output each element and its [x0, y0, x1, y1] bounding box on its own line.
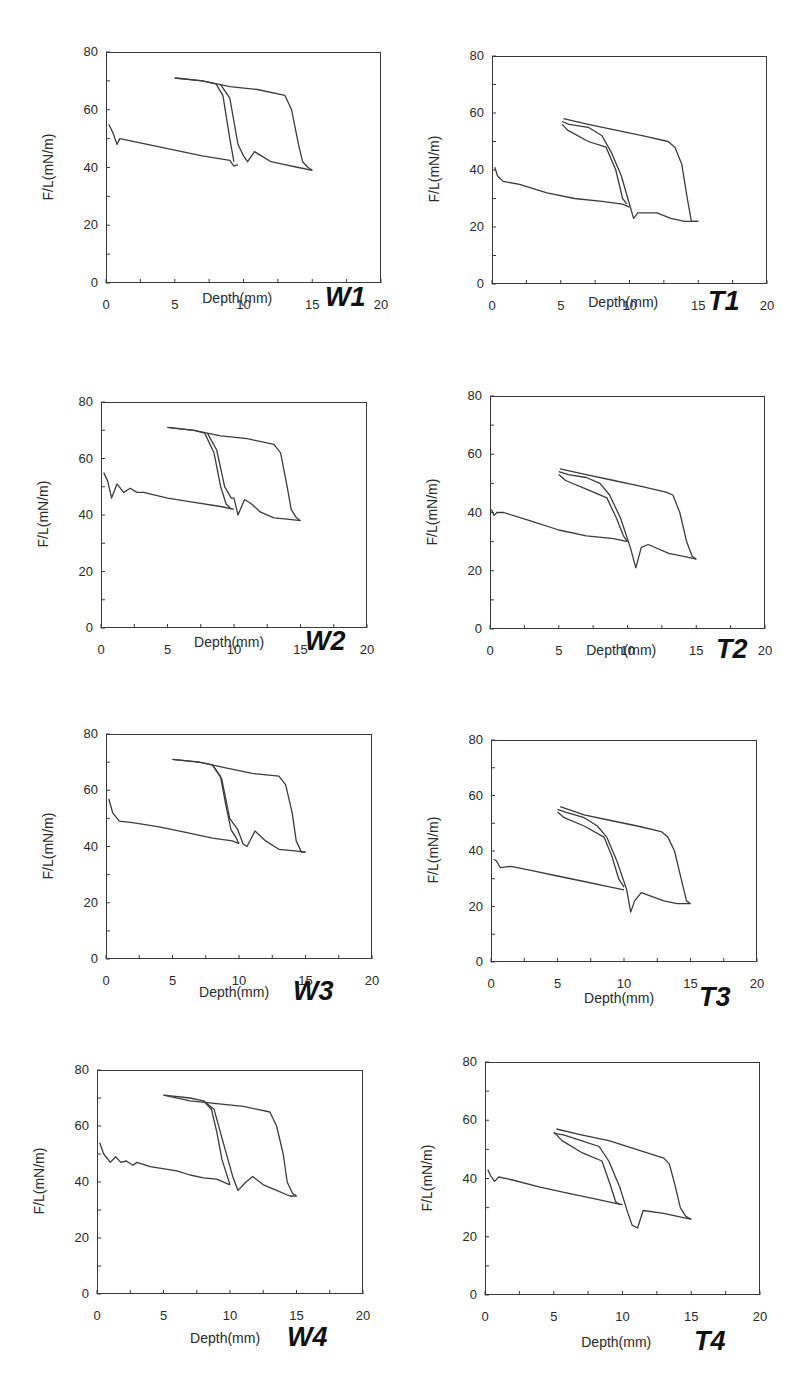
- series-line-return-from-15mm: [173, 759, 306, 852]
- y-tick-label: 20: [455, 899, 483, 914]
- y-tick-label: 20: [70, 895, 98, 910]
- y-tick-label: 60: [70, 782, 98, 797]
- x-tick-label: 5: [160, 297, 190, 312]
- series-line-return-from-15mm: [560, 807, 690, 904]
- series-line-curve-to-10mm: [100, 1143, 230, 1185]
- y-axis-label: F/L(mN/m): [426, 129, 442, 209]
- y-tick-label: 40: [65, 507, 93, 522]
- plot-area: [485, 1062, 760, 1295]
- x-tick-label: 20: [750, 643, 780, 658]
- y-tick-label: 80: [449, 1054, 477, 1069]
- x-axis-label: Depth(mm): [581, 1334, 651, 1350]
- series-line-curve-to-10mm: [494, 859, 624, 890]
- series-line-return-from-10mm: [558, 812, 625, 887]
- y-tick-label: 40: [454, 505, 482, 520]
- x-tick-label: 0: [91, 973, 121, 988]
- x-tick-label: 0: [91, 297, 121, 312]
- x-tick-label: 20: [752, 298, 782, 313]
- x-tick-label: 15: [681, 643, 711, 658]
- x-tick-label: 0: [477, 298, 507, 313]
- y-tick-label: 20: [456, 219, 484, 234]
- x-tick-label: 20: [742, 976, 772, 991]
- y-tick-label: 0: [65, 620, 93, 635]
- series-line-return-from-10mm: [168, 427, 232, 509]
- y-tick-label: 80: [456, 48, 484, 63]
- y-tick-label: 60: [456, 105, 484, 120]
- y-tick-label: 40: [61, 1174, 89, 1189]
- x-tick-label: 10: [608, 1309, 638, 1324]
- y-tick-label: 40: [456, 162, 484, 177]
- panel-label: T2: [716, 634, 748, 665]
- y-tick-label: 0: [456, 276, 484, 291]
- y-tick-label: 80: [455, 732, 483, 747]
- x-tick-label: 20: [348, 1308, 378, 1323]
- x-tick-label: 5: [539, 1309, 569, 1324]
- x-axis-label: Depth(mm): [199, 984, 269, 1000]
- plot-area: [97, 1070, 363, 1294]
- series-line-curve-return-2: [207, 433, 300, 521]
- x-tick-label: 5: [544, 643, 574, 658]
- x-tick-label: 0: [86, 642, 116, 657]
- y-tick-label: 40: [70, 160, 98, 175]
- plot-area: [492, 56, 767, 284]
- y-tick-label: 0: [70, 951, 98, 966]
- x-tick-label: 5: [158, 973, 188, 988]
- x-tick-label: 10: [215, 1308, 245, 1323]
- y-tick-label: 60: [65, 451, 93, 466]
- x-tick-label: 0: [476, 976, 506, 991]
- y-tick-label: 80: [65, 394, 93, 409]
- y-tick-label: 0: [61, 1286, 89, 1301]
- series-line-loop-mid: [558, 809, 691, 912]
- y-tick-label: 20: [454, 563, 482, 578]
- x-tick-label: 5: [153, 642, 183, 657]
- y-axis-label: F/L(mN/m): [425, 810, 441, 890]
- y-tick-label: 60: [70, 102, 98, 117]
- y-tick-label: 20: [61, 1230, 89, 1245]
- x-axis-label: Depth(mm): [194, 634, 264, 650]
- y-tick-label: 0: [70, 275, 98, 290]
- y-tick-label: 60: [449, 1112, 477, 1127]
- x-tick-label: 20: [352, 642, 382, 657]
- x-tick-label: 10: [609, 976, 639, 991]
- x-tick-label: 20: [745, 1309, 775, 1324]
- y-axis-label: F/L(mN/m): [40, 127, 56, 207]
- series-line-return-from-15mm: [557, 1129, 692, 1219]
- x-tick-label: 5: [543, 976, 573, 991]
- x-tick-label: 0: [475, 643, 505, 658]
- y-tick-label: 80: [454, 388, 482, 403]
- x-tick-label: 15: [676, 1309, 706, 1324]
- x-tick-label: 20: [366, 297, 396, 312]
- series-line-return-from-15mm: [164, 1095, 297, 1196]
- y-tick-label: 80: [61, 1062, 89, 1077]
- x-tick-label: 15: [282, 1308, 312, 1323]
- y-axis-label: F/L(mN/m): [35, 474, 51, 554]
- x-tick-label: 5: [546, 298, 576, 313]
- series-line-return-from-10mm: [164, 1095, 231, 1185]
- x-axis-label: Depth(mm): [586, 642, 656, 658]
- x-tick-label: 5: [149, 1308, 179, 1323]
- y-tick-label: 80: [70, 726, 98, 741]
- plot-area: [490, 396, 765, 629]
- panel-label: W4: [287, 1322, 328, 1353]
- series-line-curve-to-10mm: [109, 799, 239, 844]
- y-axis-label: F/L(mN/m): [31, 1141, 47, 1221]
- y-tick-label: 60: [454, 446, 482, 461]
- panel-label: T1: [708, 286, 740, 317]
- series-line-loop-mid: [562, 122, 698, 222]
- x-axis-label: Depth(mm): [202, 290, 272, 306]
- series-line-return-from-15mm: [564, 119, 699, 222]
- series-line-curve-to-10mm: [491, 510, 627, 542]
- y-tick-label: 0: [449, 1287, 477, 1302]
- y-tick-label: 60: [455, 788, 483, 803]
- panel-label: T4: [694, 1326, 726, 1357]
- y-axis-label: F/L(mN/m): [40, 806, 56, 886]
- panel-label: W1: [325, 282, 366, 313]
- plot-area: [106, 734, 372, 959]
- y-tick-label: 20: [65, 564, 93, 579]
- y-tick-label: 0: [455, 954, 483, 969]
- plot-area: [491, 740, 757, 962]
- x-axis-label: Depth(mm): [584, 990, 654, 1006]
- series-line-return-from-15mm: [168, 427, 301, 520]
- x-tick-label: 15: [297, 297, 327, 312]
- y-tick-label: 20: [449, 1229, 477, 1244]
